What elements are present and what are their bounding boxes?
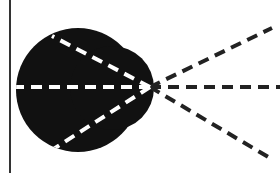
ray-diagram — [0, 0, 280, 173]
